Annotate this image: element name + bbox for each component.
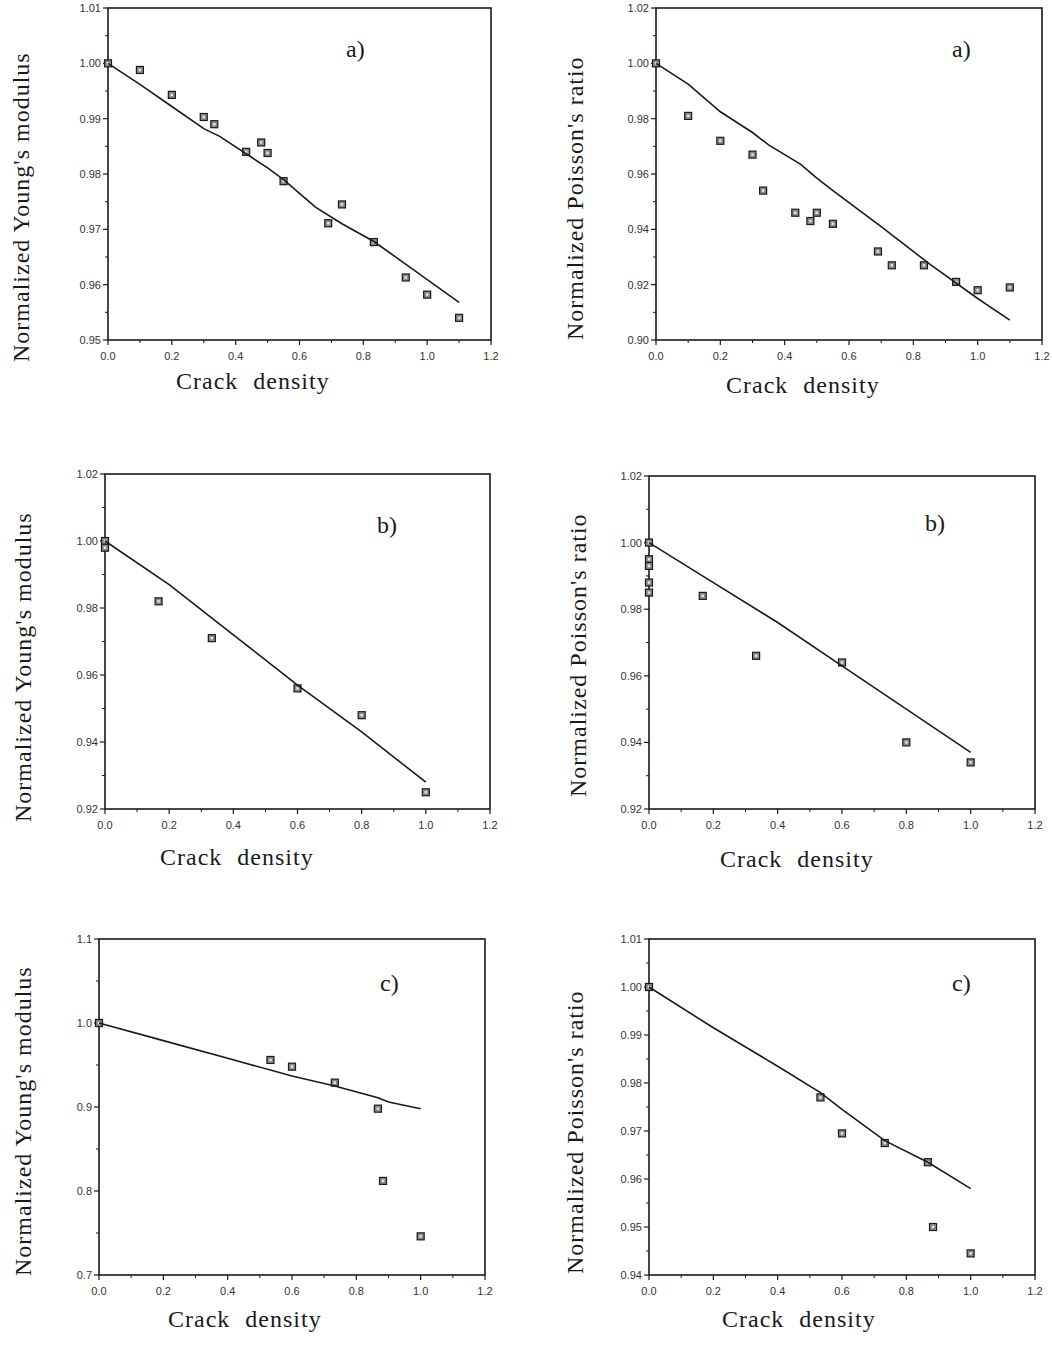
x-tick-label: 0.0 [641, 1285, 656, 1297]
model-line [649, 987, 971, 1189]
panel-label: c) [952, 970, 971, 997]
plot-frame [649, 939, 1035, 1275]
x-tick-label: 1.0 [963, 1285, 978, 1297]
y-tick-label: 0.99 [621, 1029, 642, 1041]
y-tick-label: 0.97 [621, 1125, 642, 1137]
x-tick-label: 0.4 [770, 1285, 785, 1297]
x-tick-label: 1.2 [1027, 1285, 1042, 1297]
y-tick-label: 1.01 [621, 933, 642, 945]
y-tick-label: 0.94 [621, 1269, 642, 1281]
x-tick-label: 0.2 [706, 1285, 721, 1297]
y-tick-label: 0.95 [621, 1221, 642, 1233]
plot-area: 0.00.20.40.60.81.01.20.940.950.960.970.9… [0, 0, 1052, 1352]
x-tick-label: 0.6 [834, 1285, 849, 1297]
y-tick-label: 1.00 [621, 981, 642, 993]
x-axis-label: Crack density [722, 1306, 876, 1333]
chart-poisson-c: 0.00.20.40.60.81.01.20.940.950.960.970.9… [0, 0, 1052, 1352]
y-tick-label: 0.98 [621, 1077, 642, 1089]
x-tick-label: 0.8 [899, 1285, 914, 1297]
y-axis-label: Normalized Poisson's ratio [562, 990, 589, 1274]
y-tick-label: 0.96 [621, 1173, 642, 1185]
